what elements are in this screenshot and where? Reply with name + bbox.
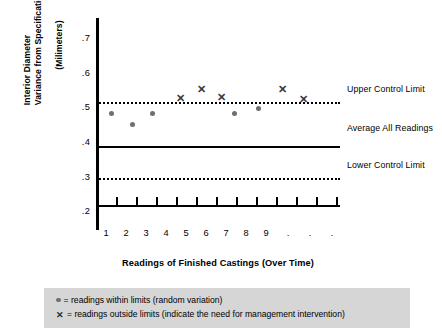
legend-box: = readings within limits (random variati…	[44, 288, 410, 328]
lower-control-limit-line	[96, 178, 340, 180]
data-point-dot-8	[256, 106, 261, 111]
x-tick-label-10: .	[281, 228, 295, 238]
legend-dot-icon	[56, 298, 61, 303]
x-tick-1	[116, 197, 118, 205]
y-tick-label-1: .6	[66, 68, 90, 78]
y-tick-label-0: .7	[66, 33, 90, 43]
average-all-readings-line	[96, 146, 340, 148]
x-tick-2	[136, 197, 138, 205]
legend-item-within-limits: = readings within limits (random variati…	[56, 295, 222, 305]
x-tick-5	[196, 197, 198, 205]
data-point-dot-3	[150, 111, 155, 116]
data-point-dot-7	[232, 111, 237, 116]
x-tick-6	[216, 197, 218, 205]
x-tick-label-7: 7	[219, 228, 233, 238]
data-point-x-10: ✕	[299, 96, 308, 103]
y-axis-line	[96, 18, 99, 230]
x-axis-line	[96, 205, 340, 208]
x-tick-label-3: 3	[139, 228, 153, 238]
x-tick-label-8: 8	[239, 228, 253, 238]
y-tick-label-4: .3	[66, 172, 90, 182]
data-point-x-5: ✕	[197, 86, 206, 93]
y-tick-label-2: .5	[66, 102, 90, 112]
data-point-x-4: ✕	[176, 95, 185, 102]
x-tick-11	[316, 197, 318, 205]
data-point-x-9: ✕	[278, 86, 287, 93]
average-all-readings-label: Average All Readings	[347, 123, 433, 133]
control-chart-figure: Interior Diameter Variance from Specific…	[0, 0, 442, 336]
x-tick-label-4: 4	[159, 228, 173, 238]
x-tick-label-1: 1	[99, 228, 113, 238]
upper-control-limit-label: Upper Control Limit	[347, 84, 425, 94]
legend-x-icon: ✕	[56, 310, 64, 319]
data-point-dot-1	[109, 111, 114, 116]
x-tick-label-2: 2	[119, 228, 133, 238]
x-tick-label-9: 9	[259, 228, 273, 238]
x-axis-title: Readings of Finished Castings (Over Time…	[96, 258, 340, 268]
x-tick-8	[256, 197, 258, 205]
x-tick-label-12: .	[325, 228, 339, 238]
data-point-dot-2	[130, 122, 135, 127]
x-tick-12	[336, 197, 338, 205]
x-tick-label-6: 6	[199, 228, 213, 238]
plot-area: .7 .6 .5 .4 .3 .2 1 2 3 4 5 6 7 8 9 . .	[0, 0, 442, 336]
y-tick-label-3: .4	[66, 137, 90, 147]
lower-control-limit-label: Lower Control Limit	[347, 160, 425, 170]
y-tick-label-5: .2	[66, 206, 90, 216]
data-point-x-6: ✕	[217, 94, 226, 101]
x-tick-label-11: .	[303, 228, 317, 238]
x-tick-3	[156, 197, 158, 205]
x-tick-4	[176, 197, 178, 205]
x-tick-label-5: 5	[179, 228, 193, 238]
x-tick-9	[276, 197, 278, 205]
legend-item-outside-limits: ✕ = readings outside limits (indicate th…	[56, 309, 345, 319]
x-tick-10	[296, 197, 298, 205]
legend-outside-limits-text: = readings outside limits (indicate the …	[67, 309, 345, 319]
legend-within-limits-text: = readings within limits (random variati…	[64, 295, 223, 305]
x-tick-7	[236, 197, 238, 205]
